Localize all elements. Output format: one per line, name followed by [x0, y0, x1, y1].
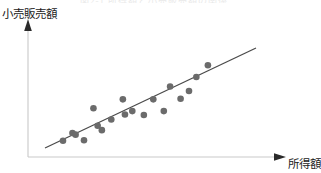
scatter-point: [193, 74, 200, 81]
scatter-point: [205, 62, 212, 69]
scatter-point: [167, 83, 174, 90]
scatter-point: [72, 131, 79, 138]
scatter-point: [150, 96, 157, 103]
scatter-point: [141, 112, 148, 119]
scatter-point: [108, 116, 115, 123]
scatter-point: [60, 138, 67, 145]
scatter-point: [161, 108, 168, 115]
scatter-point: [177, 96, 184, 103]
scatter-point: [81, 137, 88, 144]
scatter-points-group: [60, 62, 212, 144]
scatter-point: [90, 105, 97, 112]
scatter-point: [129, 108, 136, 115]
scatter-point: [120, 96, 127, 103]
scatter-point: [186, 88, 193, 95]
x-axis-arrowhead: [274, 153, 286, 161]
scatter-point: [122, 111, 129, 118]
y-axis-arrowhead: [24, 19, 32, 31]
scatter-point: [99, 127, 106, 134]
